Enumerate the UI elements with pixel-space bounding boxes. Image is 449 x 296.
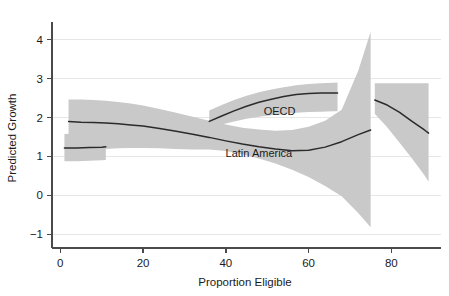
y-tick-label-5: 4	[37, 34, 44, 46]
series-annotation-latin-america: Latin America	[226, 147, 294, 159]
x-tick-label-2: 40	[219, 257, 232, 269]
series-annotation-oecd: OECD	[264, 105, 296, 117]
y-tick-label-4: 3	[37, 73, 43, 85]
confidence-band-oecd	[64, 132, 105, 162]
confidence-bands-group	[64, 32, 428, 228]
y-tick-label-1: 0	[37, 189, 43, 201]
y-tick-label-3: 2	[37, 112, 43, 124]
x-axis-title: Proportion Eligible	[198, 276, 291, 288]
chart-figure: −101234020406080 OECDLatin America Propo…	[0, 0, 449, 296]
chart-canvas: −101234020406080 OECDLatin America Propo…	[0, 0, 449, 296]
y-tick-label-2: 1	[37, 150, 43, 162]
x-tick-label-1: 20	[137, 257, 150, 269]
confidence-band-oecd	[375, 83, 429, 182]
x-tick-label-3: 60	[302, 257, 315, 269]
confidence-band-latin-america	[69, 32, 371, 228]
x-tick-label-4: 80	[385, 257, 398, 269]
x-tick-label-0: 0	[57, 257, 63, 269]
y-axis-title: Predicted Growth	[6, 94, 18, 183]
y-tick-label-0: −1	[30, 228, 43, 240]
